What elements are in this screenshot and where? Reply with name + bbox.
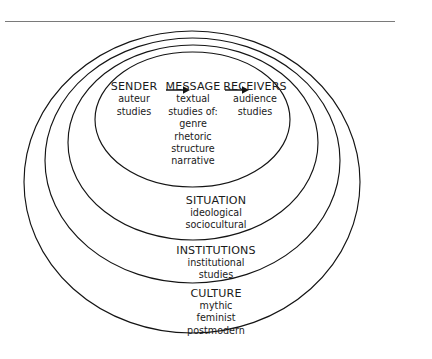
nested-ellipses-graphic bbox=[0, 0, 432, 359]
ellipse-situation bbox=[68, 45, 318, 240]
ellipse-institutions bbox=[45, 38, 340, 283]
ellipse-culture-outer bbox=[24, 31, 360, 333]
diagram-page: SENDER auteur studies MESSAGE textual st… bbox=[0, 0, 432, 359]
ellipse-communication-core bbox=[95, 52, 290, 187]
